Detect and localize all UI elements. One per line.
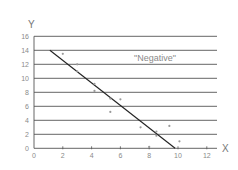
y-tick-label: 14 xyxy=(21,47,29,54)
data-point xyxy=(62,53,64,55)
gridlines xyxy=(34,36,217,134)
x-tick-label: 4 xyxy=(90,152,94,159)
data-point xyxy=(93,83,95,85)
data-point xyxy=(178,140,180,142)
x-tick-label: 12 xyxy=(203,152,211,159)
y-axis-title: Y xyxy=(28,19,35,30)
negative-trend-line xyxy=(50,50,175,148)
negative-annotation: "Negative" xyxy=(134,53,176,63)
data-points xyxy=(62,53,181,148)
data-point xyxy=(93,90,95,92)
scatter-chart: 024681012 0246810121416 Y X "Negative" xyxy=(0,0,238,170)
data-point xyxy=(168,125,170,127)
y-axis-ticks: 0246810121416 xyxy=(21,33,29,152)
trend-line xyxy=(50,50,175,148)
y-tick-label: 6 xyxy=(25,103,29,110)
y-tick-label: 10 xyxy=(21,75,29,82)
data-point xyxy=(148,146,150,148)
data-point xyxy=(155,130,157,132)
y-tick-label: 0 xyxy=(25,145,29,152)
y-tick-label: 12 xyxy=(21,61,29,68)
y-tick-label: 8 xyxy=(25,89,29,96)
x-tick-label: 10 xyxy=(174,152,182,159)
data-point xyxy=(155,135,157,137)
data-point xyxy=(119,98,121,100)
data-point xyxy=(109,111,111,113)
y-tick-label: 4 xyxy=(25,117,29,124)
x-axis-title: X xyxy=(222,143,229,154)
data-point xyxy=(76,70,78,72)
data-point xyxy=(109,98,111,100)
x-tick-label: 2 xyxy=(61,152,65,159)
x-tick-label: 0 xyxy=(32,152,36,159)
x-tick-label: 8 xyxy=(147,152,151,159)
y-tick-label: 16 xyxy=(21,33,29,40)
y-tick-label: 2 xyxy=(25,131,29,138)
data-point xyxy=(139,126,141,128)
x-tick-label: 6 xyxy=(118,152,122,159)
data-point xyxy=(76,63,78,65)
